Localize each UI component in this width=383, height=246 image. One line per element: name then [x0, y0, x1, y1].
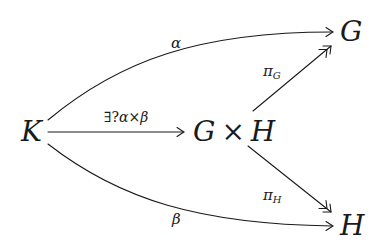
node-G: G [340, 18, 362, 46]
product-right-factor: H [251, 115, 275, 148]
label-pi-H-sub: H [273, 194, 282, 205]
label-pi-H-main: π [263, 186, 273, 204]
arrow-alpha [48, 32, 332, 120]
arrow-pi-H [248, 146, 331, 212]
product-left-factor: G [193, 115, 215, 148]
label-pi-G-sub: G [273, 70, 281, 81]
diagram-arrows [0, 0, 383, 246]
label-pi-G: πG [263, 64, 281, 81]
label-unique-alpha: α [119, 109, 128, 125]
exists-unique-symbol: ∃? [104, 109, 119, 125]
label-beta: β [172, 212, 181, 227]
label-pi-G-main: π [263, 62, 273, 80]
node-H: H [340, 212, 364, 240]
label-unique-times: × [129, 109, 141, 125]
label-unique-beta: β [140, 109, 148, 125]
label-pi-H: πH [263, 188, 282, 205]
label-unique-arrow: ∃?α×β [104, 110, 148, 124]
times-symbol: × [221, 115, 244, 148]
arrow-beta [48, 144, 332, 226]
node-K: K [21, 118, 42, 146]
label-alpha: α [171, 36, 181, 51]
node-product: G×H [193, 118, 275, 146]
